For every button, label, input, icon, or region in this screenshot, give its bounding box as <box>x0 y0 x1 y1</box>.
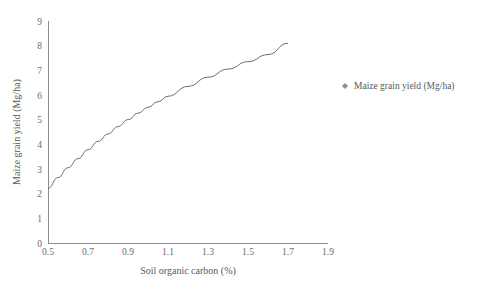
trend-line <box>48 43 288 188</box>
y-axis-title: Maize grain yield (Mg/ha) <box>11 79 23 185</box>
x-axis-tick-labels: 0.50.70.91.11.31.51.71.9 <box>42 247 334 257</box>
y-tick-label: 6 <box>37 91 42 101</box>
scatter-plot: 0.50.70.91.11.31.51.71.9 0123456789 Soil… <box>0 0 483 294</box>
y-tick-label: 2 <box>37 189 42 199</box>
chart-container: 0.50.70.91.11.31.51.71.9 0123456789 Soil… <box>0 0 483 294</box>
y-tick-label: 1 <box>37 214 42 224</box>
axes <box>49 21 329 244</box>
y-tick-label: 5 <box>37 115 42 125</box>
x-tick-label: 1.1 <box>162 247 174 257</box>
legend-label: Maize grain yield (Mg/ha) <box>354 81 455 92</box>
y-tick-label: 3 <box>37 165 42 175</box>
x-axis-title: Soil organic carbon (%) <box>140 265 236 277</box>
x-tick-label: 1.5 <box>242 247 254 257</box>
y-tick-label: 4 <box>37 140 42 150</box>
x-tick-label: 0.5 <box>42 247 54 257</box>
y-axis-tick-labels: 0123456789 <box>37 17 42 249</box>
x-tick-label: 0.7 <box>82 247 94 257</box>
legend: Maize grain yield (Mg/ha) <box>342 81 455 92</box>
y-tick-label: 9 <box>37 17 42 27</box>
x-tick-label: 1.9 <box>322 247 334 257</box>
x-tick-label: 0.9 <box>122 247 134 257</box>
y-tick-label: 0 <box>37 239 42 249</box>
x-tick-label: 1.7 <box>282 247 294 257</box>
legend-marker-icon <box>342 83 348 89</box>
x-tick-label: 1.3 <box>202 247 214 257</box>
trend-curve-path <box>48 43 288 188</box>
y-tick-label: 8 <box>37 41 42 51</box>
y-tick-label: 7 <box>37 66 42 76</box>
